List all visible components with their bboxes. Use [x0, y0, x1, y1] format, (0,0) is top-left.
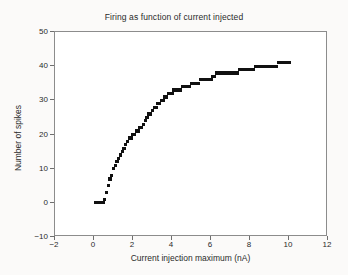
data-point	[275, 65, 278, 68]
data-point	[154, 106, 157, 109]
data-point	[161, 99, 164, 102]
x-tick-label: 4	[169, 240, 173, 249]
data-point	[188, 85, 191, 88]
data-point	[126, 140, 129, 143]
data-point	[144, 119, 147, 122]
data-point	[115, 160, 118, 163]
y-tick	[50, 236, 54, 237]
y-tick	[50, 134, 54, 135]
data-point	[129, 136, 132, 139]
data-point	[287, 61, 290, 64]
data-point	[137, 129, 140, 132]
y-tick-label: −10	[34, 232, 48, 241]
chart-title: Firing as function of current injected	[0, 12, 348, 22]
data-point	[142, 123, 145, 126]
data-point	[252, 68, 255, 71]
data-point	[209, 78, 212, 81]
data-point	[170, 92, 173, 95]
x-tick-label: 10	[284, 240, 293, 249]
data-point	[105, 191, 108, 194]
data-point	[213, 75, 216, 78]
x-tick-label: 0	[91, 240, 95, 249]
y-tick-label: 20	[39, 129, 48, 138]
y-tick	[50, 168, 54, 169]
y-tick-label: 0	[44, 197, 48, 206]
data-point	[140, 126, 143, 129]
data-point	[121, 150, 124, 153]
x-tick-label: 12	[323, 240, 332, 249]
x-tick-label: 8	[247, 240, 251, 249]
data-point	[149, 112, 152, 115]
x-axis-label: Current injection maximum (nA)	[54, 253, 327, 263]
x-tick-label: 6	[208, 240, 212, 249]
y-axis-label: Number of spikes	[13, 68, 23, 208]
x-tick-label: 2	[130, 240, 134, 249]
x-tick-label: −2	[49, 240, 58, 249]
data-point	[236, 71, 239, 74]
data-point	[158, 102, 161, 105]
data-point	[114, 164, 117, 167]
data-point	[165, 95, 168, 98]
data-point	[101, 201, 104, 204]
data-point	[108, 177, 111, 180]
data-point	[133, 133, 136, 136]
y-tick-label: 50	[39, 27, 48, 36]
plot-area	[54, 31, 327, 236]
y-tick	[50, 65, 54, 66]
data-point	[112, 167, 115, 170]
data-point	[103, 198, 106, 201]
data-point	[124, 143, 127, 146]
y-tick	[50, 99, 54, 100]
data-point	[117, 157, 120, 160]
data-point	[197, 82, 200, 85]
data-point	[119, 153, 122, 156]
data-point	[179, 88, 182, 91]
chart-figure: Firing as function of current injected −…	[0, 0, 348, 275]
data-point	[122, 147, 125, 150]
y-tick	[50, 31, 54, 32]
y-tick-label: 40	[39, 61, 48, 70]
data-point	[151, 109, 154, 112]
y-tick-label: 10	[39, 163, 48, 172]
y-tick	[50, 202, 54, 203]
data-point	[107, 184, 110, 187]
data-point	[110, 174, 113, 177]
data-point	[145, 116, 148, 119]
y-tick-label: 30	[39, 95, 48, 104]
